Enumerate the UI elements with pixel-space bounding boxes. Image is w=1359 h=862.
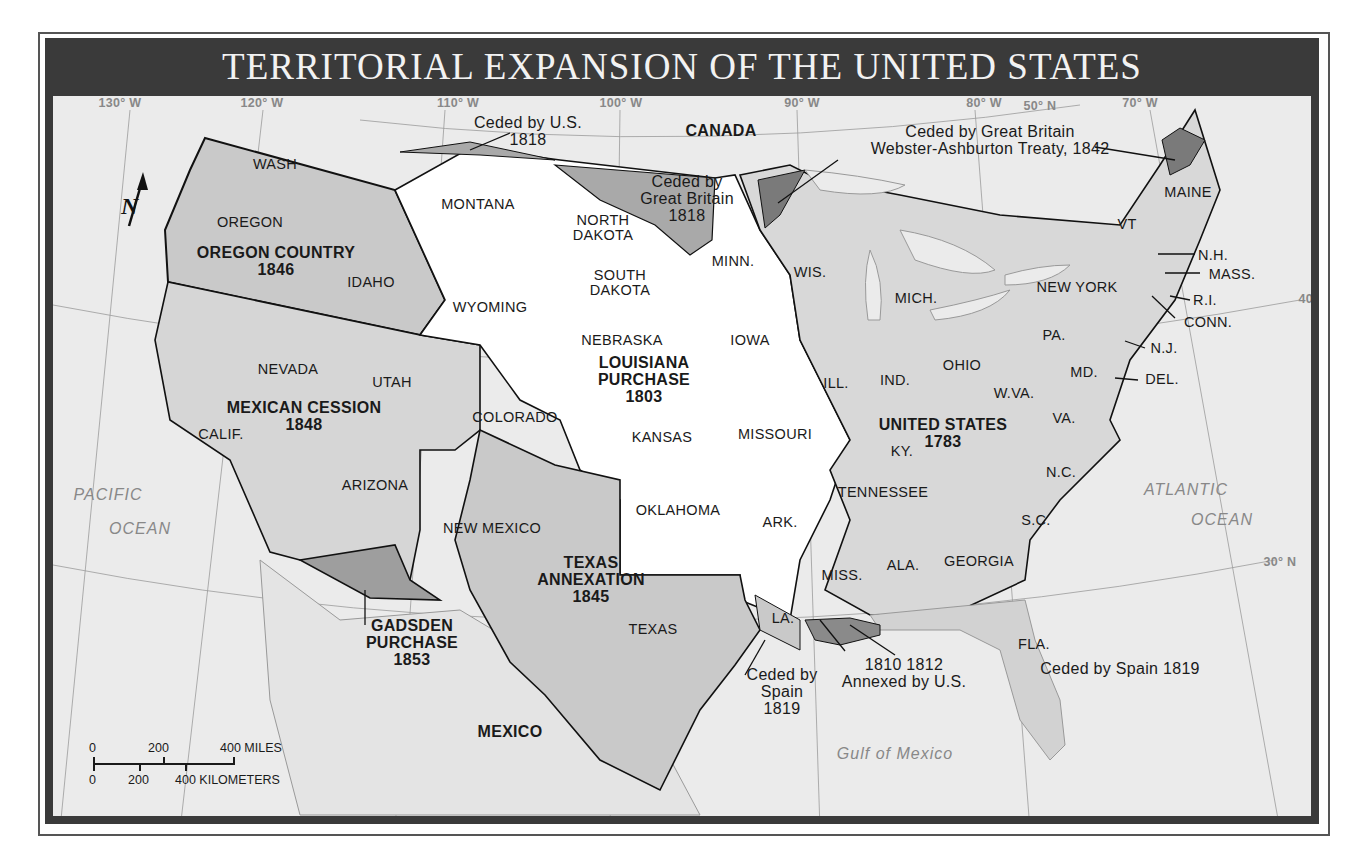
scale-tick [185, 765, 187, 771]
map-area: N 0 200 400 MILES 0 200 400 KILOMETERS 1… [53, 96, 1311, 816]
state-label: LA. [772, 611, 795, 626]
scale-tick [233, 757, 235, 763]
cession-note: Ceded by Great BritainWebster-Ashburton … [871, 124, 1110, 158]
water-label: PACIFIC [74, 487, 143, 504]
state-label: ARK. [762, 515, 797, 530]
state-label: NORTHDAKOTA [573, 213, 633, 243]
water-label: Gulf of Mexico [837, 746, 953, 763]
state-label: NEW MEXICO [443, 521, 541, 536]
state-label: MISS. [822, 568, 863, 583]
graticule-label: 90° W [784, 97, 820, 110]
state-callout-label: DEL. [1145, 372, 1178, 387]
state-label: MINN. [712, 254, 755, 269]
state-label: TENNESSEE [838, 485, 929, 500]
state-label: COLORADO [472, 410, 557, 425]
state-label: NEW YORK [1036, 280, 1117, 295]
graticule-label: 80° W [966, 97, 1002, 110]
cession-note: Ceded by U.S.1818 [474, 115, 582, 149]
state-label: OHIO [943, 358, 981, 373]
scale-tick [163, 757, 165, 763]
region-label: TEXASANNEXATION1845 [537, 555, 645, 605]
region-label: MEXICAN CESSION1848 [227, 400, 382, 434]
title-bar: TERRITORIAL EXPANSION OF THE UNITED STAT… [45, 38, 1319, 94]
state-label: S.C. [1021, 513, 1050, 528]
region-label: OREGON COUNTRY1846 [197, 245, 355, 279]
state-callout-label: R.I. [1193, 293, 1217, 308]
state-label: KANSAS [632, 430, 693, 445]
state-label: SOUTHDAKOTA [590, 268, 650, 298]
state-label: MAINE [1164, 185, 1211, 200]
scale-line [93, 763, 235, 765]
state-label: TEXAS [628, 622, 677, 637]
graticule-label: 130° W [99, 97, 142, 110]
state-callout-label: CONN. [1184, 315, 1232, 330]
state-label: WYOMING [453, 300, 528, 315]
state-label: N.C. [1046, 465, 1076, 480]
state-label: MISSOURI [738, 427, 812, 442]
graticule-label: 30° N [1264, 556, 1297, 569]
graticule-label: 70° W [1122, 97, 1158, 110]
scale-km-400: 400 KILOMETERS [175, 773, 280, 787]
state-callout-label: N.H. [1198, 248, 1228, 263]
cession-note: Ceded by Spain 1819 [1040, 661, 1200, 678]
graticule-label: 50° N [1024, 100, 1057, 113]
water-label: OCEAN [109, 521, 171, 538]
state-label: MONTANA [441, 197, 515, 212]
state-label: VA. [1052, 411, 1075, 426]
state-label: ALA. [887, 558, 920, 573]
state-label: WASH [253, 157, 297, 172]
region-label: UNITED STATES1783 [879, 417, 1008, 451]
state-label: UTAH [372, 375, 412, 390]
west-florida-annex [805, 618, 880, 645]
compass-label: N [120, 193, 140, 219]
state-label: MICH. [895, 291, 938, 306]
map-title: TERRITORIAL EXPANSION OF THE UNITED STAT… [222, 45, 1142, 88]
state-label: OKLAHOMA [636, 503, 721, 518]
state-label: W.VA. [994, 386, 1035, 401]
scale-km-200: 200 [128, 773, 149, 787]
graticule-label: 40° N [1299, 293, 1311, 306]
country-label: CANADA [685, 123, 756, 140]
state-label: ILL. [823, 376, 848, 391]
north-arrow-icon: N [115, 170, 155, 230]
state-label: GEORGIA [944, 554, 1014, 569]
scale-tick [93, 757, 95, 771]
state-label: OREGON [217, 215, 283, 230]
state-label: FLA. [1018, 637, 1050, 652]
state-label: ARIZONA [342, 478, 409, 493]
scale-tick [139, 765, 141, 771]
water-label: OCEAN [1191, 512, 1253, 529]
region-label: LOUISIANAPURCHASE1803 [598, 355, 690, 405]
cession-note: Ceded bySpain1819 [747, 667, 818, 717]
scale-miles-0: 0 [89, 741, 96, 755]
cession-note: 1810 1812Annexed by U.S. [842, 657, 967, 691]
scale-km-0: 0 [89, 773, 96, 787]
country-label: MEXICO [478, 724, 543, 741]
graticule-label: 120° W [241, 97, 284, 110]
scale-miles-200: 200 [148, 741, 169, 755]
state-label: IOWA [730, 333, 769, 348]
state-label: IND. [880, 373, 910, 388]
state-label: NEVADA [258, 362, 318, 377]
scale-miles-400: 400 MILES [220, 741, 282, 755]
water-label: ATLANTIC [1144, 482, 1228, 499]
state-callout-label: N.J. [1151, 341, 1178, 356]
graticule-label: 110° W [437, 97, 479, 110]
state-label: PA. [1042, 328, 1065, 343]
state-label: NEBRASKA [581, 333, 662, 348]
graticule-label: 100° W [600, 97, 643, 110]
state-callout-label: MASS. [1209, 267, 1256, 282]
cession-note: Ceded byGreat Britain1818 [640, 174, 734, 224]
state-label: WIS. [794, 265, 827, 280]
scale-bar: 0 200 400 MILES 0 200 400 KILOMETERS [83, 741, 343, 801]
region-label: GADSDENPURCHASE1853 [366, 618, 458, 668]
state-label: MD. [1070, 365, 1097, 380]
state-label: VT [1117, 217, 1136, 232]
